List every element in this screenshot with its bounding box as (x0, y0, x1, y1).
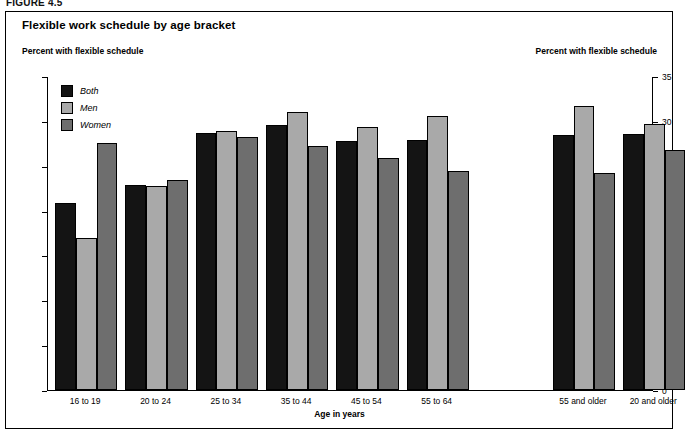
bar-men-2[interactable] (216, 131, 237, 390)
y-tick-left-30 (42, 122, 47, 123)
bar-women-7[interactable] (665, 150, 686, 390)
x-category-label-7: 20 and older (608, 396, 689, 406)
bar-both-5[interactable] (407, 140, 428, 390)
legend-swatch-both-icon (61, 85, 73, 97)
bar-women-0[interactable] (97, 143, 118, 390)
legend-item-both: Both (61, 82, 157, 99)
bar-group-2 (196, 77, 258, 390)
bar-group-5 (407, 77, 469, 390)
legend-label-both: Both (80, 86, 99, 96)
bar-women-1[interactable] (167, 180, 188, 390)
bar-men-5[interactable] (427, 116, 448, 390)
bar-men-4[interactable] (357, 127, 378, 390)
bar-group-7 (623, 77, 685, 390)
bar-both-3[interactable] (266, 125, 287, 390)
legend-swatch-women-icon (61, 119, 73, 131)
x-axis-title: Age in years (0, 409, 679, 419)
y-tick-left-15 (42, 256, 47, 257)
bar-both-4[interactable] (336, 141, 357, 390)
x-category-label-5: 55 to 64 (392, 396, 482, 406)
y-tick-left-10 (42, 301, 47, 302)
bar-men-1[interactable] (146, 186, 167, 390)
y-tick-right-0 (653, 391, 658, 392)
bar-men-0[interactable] (76, 238, 97, 390)
legend-item-women: Women (61, 116, 157, 133)
bar-both-0[interactable] (55, 203, 76, 390)
bar-women-4[interactable] (378, 158, 399, 390)
bar-women-3[interactable] (308, 146, 329, 390)
bar-women-5[interactable] (448, 171, 469, 390)
bar-women-2[interactable] (237, 137, 258, 390)
bar-men-6[interactable] (574, 106, 595, 390)
legend-label-women: Women (80, 120, 111, 130)
legend-item-men: Men (61, 99, 157, 116)
bar-group-3 (266, 77, 328, 390)
bar-group-4 (336, 77, 398, 390)
bar-men-7[interactable] (644, 124, 665, 390)
chart-legend: Both Men Women (61, 82, 157, 133)
legend-label-men: Men (80, 103, 98, 113)
bar-men-3[interactable] (287, 112, 308, 390)
bar-group-6 (553, 77, 615, 390)
bar-both-1[interactable] (125, 185, 146, 390)
y-tick-left-20 (42, 212, 47, 213)
y-tick-left-0 (42, 391, 47, 392)
bar-women-6[interactable] (594, 173, 615, 390)
bar-both-7[interactable] (623, 134, 644, 390)
bar-both-6[interactable] (553, 135, 574, 390)
legend-swatch-men-icon (61, 102, 73, 114)
y-tick-left-25 (42, 167, 47, 168)
y-tick-left-35 (42, 77, 47, 78)
bar-both-2[interactable] (196, 133, 217, 390)
y-tick-left-5 (42, 346, 47, 347)
